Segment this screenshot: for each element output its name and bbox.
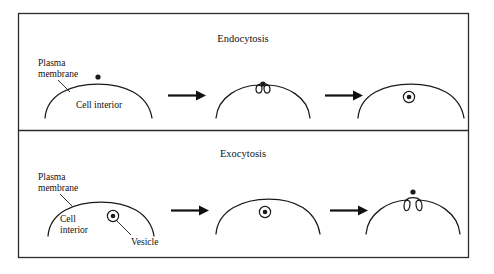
endocytosis-stage-arrow-2 [325,91,363,101]
figure-root: Endocytosis Plasma membrane Cell interio… [0,0,494,274]
plasma-membrane-fusion-pore [366,198,460,235]
plasma-membrane-label-line1: Plasma [38,172,66,182]
vesicle-label: Vesicle [131,237,158,247]
endocytosis-stage-2 [216,81,310,118]
vesicle-cargo-dot [111,214,116,219]
endocytosis-stage-3 [358,84,464,118]
particle-dot [260,81,265,86]
exocytosis-stage-arrow-2 [330,206,368,216]
panel-exocytosis: Exocytosis Plasma membrane Cell interior… [38,148,460,247]
panel-title-endocytosis: Endocytosis [217,33,268,44]
exocytosis-stage-2 [216,199,320,234]
plasma-membrane-leader-line [58,80,70,92]
plasma-membrane-label-line1: Plasma [38,58,66,68]
exocytosis-stage-3 [366,189,460,234]
plasma-membrane-label-line2: membrane [38,183,78,193]
panel-title-exocytosis: Exocytosis [220,148,266,159]
plasma-membrane-label-line2: membrane [38,69,78,79]
figure-border [19,14,469,258]
cell-interior-label-line1: Cell [60,214,76,224]
plasma-membrane-invagination [216,84,310,119]
exocytosis-stage-1: Cell interior Vesicle [48,202,158,247]
endocytosis-stage-arrow-1 [168,91,206,101]
cell-interior-label: Cell interior [76,100,123,110]
particle-dot [95,74,100,79]
released-cargo-dot [410,189,415,194]
exocytosis-stage-arrow-1 [171,206,209,216]
vesicle-leader-line [117,221,131,235]
cell-interior-label-line2: interior [60,225,89,235]
plasma-membrane-leader-line [60,194,72,206]
vesicle-cargo-dot [407,95,412,100]
panel-endocytosis: Endocytosis Plasma membrane Cell interio… [38,33,464,118]
endocytosis-exocytosis-figure: Endocytosis Plasma membrane Cell interio… [0,0,494,274]
endocytosis-stage-1: Cell interior [45,74,152,118]
vesicle-cargo-dot [263,210,268,215]
